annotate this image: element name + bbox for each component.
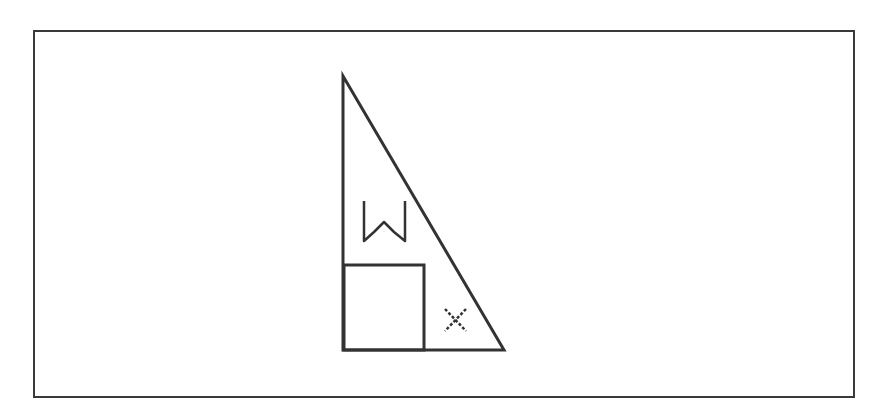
label-w: W	[364, 201, 405, 241]
inscribed-square	[344, 265, 424, 350]
label-x: x	[445, 309, 466, 331]
label-w-text: W	[384, 220, 385, 221]
geometry-figure: W x	[0, 0, 885, 414]
